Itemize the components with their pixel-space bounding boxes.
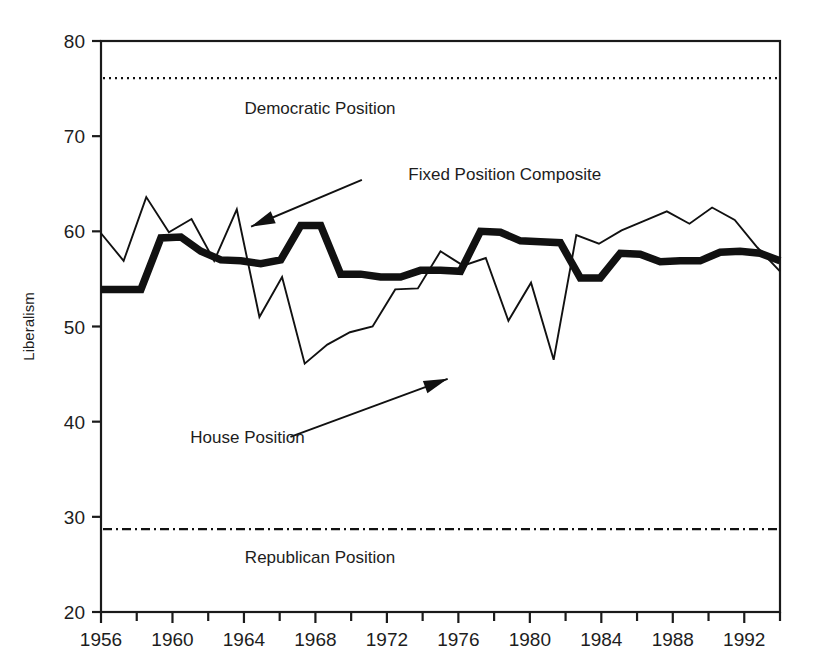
x-tick-label-1976: 1976: [437, 629, 479, 650]
chart-background: [0, 0, 813, 672]
y-tick-label-40: 40: [64, 412, 85, 433]
x-tick-label-1964: 1964: [223, 629, 266, 650]
reference-label-republican-position: Republican Position: [245, 548, 395, 567]
reference-label-democratic-position: Democratic Position: [244, 99, 395, 118]
y-axis-title: Liberalism: [20, 292, 37, 360]
x-tick-label-1968: 1968: [294, 629, 336, 650]
chart-figure: 20304050607080 1956196019641968197219761…: [0, 0, 813, 672]
x-tick-label-1992: 1992: [723, 629, 765, 650]
y-tick-label-80: 80: [64, 31, 85, 52]
x-tick-label-1960: 1960: [151, 629, 193, 650]
annotation-label-fixed-position-composite: Fixed Position Composite: [408, 165, 601, 184]
y-tick-label-30: 30: [64, 507, 85, 528]
y-tick-label-60: 60: [64, 221, 85, 242]
x-tick-label-1984: 1984: [580, 629, 623, 650]
x-tick-label-1980: 1980: [509, 629, 551, 650]
x-tick-label-1972: 1972: [366, 629, 408, 650]
y-tick-label-70: 70: [64, 126, 85, 147]
y-tick-label-20: 20: [64, 602, 85, 623]
liberalism-line-chart: 20304050607080 1956196019641968197219761…: [0, 0, 813, 672]
y-tick-label-50: 50: [64, 317, 85, 338]
x-tick-label-1988: 1988: [652, 629, 694, 650]
annotation-label-house-position: House Position: [190, 428, 304, 447]
x-tick-label-1956: 1956: [80, 629, 122, 650]
